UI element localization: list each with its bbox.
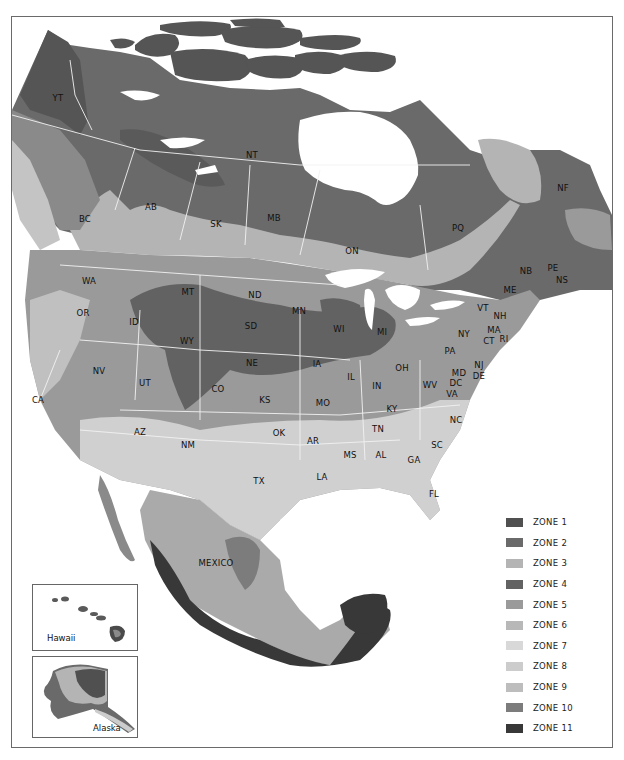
region-label-wv: WV: [423, 380, 438, 390]
region-label-nv: NV: [93, 366, 106, 376]
region-label-ri: RI: [500, 334, 509, 344]
region-label-wa: WA: [82, 276, 96, 286]
zone-9-swatch: [506, 683, 523, 692]
legend-item-zone-5: ZONE 5: [506, 594, 616, 615]
legend-item-zone-2: ZONE 2: [506, 533, 616, 554]
zone-6-swatch: [506, 621, 523, 630]
legend-item-zone-1: ZONE 1: [506, 512, 616, 533]
region-label-ks: KS: [259, 395, 270, 405]
region-label-pe: PE: [548, 263, 559, 273]
legend-item-zone-3: ZONE 3: [506, 553, 616, 574]
region-label-tn: TN: [372, 424, 384, 434]
region-label-tx: TX: [253, 476, 264, 486]
hawaii-label: Hawaii: [47, 633, 75, 643]
legend-item-zone-7: ZONE 7: [506, 636, 616, 657]
region-label-ia: IA: [313, 359, 322, 369]
region-label-ms: MS: [343, 450, 356, 460]
region-label-oh: OH: [395, 363, 408, 373]
region-label-mt: MT: [182, 287, 195, 297]
region-label-bc: BC: [79, 214, 91, 224]
region-label-or: OR: [77, 308, 90, 318]
region-label-fl: FL: [429, 489, 439, 499]
zone-10-swatch: [506, 703, 523, 712]
region-label-on: ON: [345, 246, 358, 256]
zone-1-swatch: [506, 518, 523, 527]
region-label-in: IN: [372, 381, 381, 391]
region-label-ok: OK: [273, 428, 286, 438]
region-label-ns: NS: [556, 275, 568, 285]
zone-8-swatch: [506, 662, 523, 671]
region-label-la: LA: [316, 472, 327, 482]
region-label-az: AZ: [134, 427, 146, 437]
region-label-sc: SC: [431, 440, 443, 450]
zone-7-swatch: [506, 641, 523, 650]
region-label-mb: MB: [267, 213, 281, 223]
region-label-al: AL: [376, 450, 387, 460]
region-label-ky: KY: [387, 404, 398, 414]
legend-item-zone-9: ZONE 9: [506, 677, 616, 698]
alaska-inset: Alaska: [32, 656, 138, 738]
region-label-nc: NC: [450, 415, 463, 425]
region-label-ct: CT: [483, 336, 495, 346]
region-label-mexico: MEXICO: [199, 558, 234, 568]
baja-california: [98, 475, 135, 561]
region-label-ga: GA: [408, 455, 421, 465]
legend-item-zone-8: ZONE 8: [506, 656, 616, 677]
region-label-nj: NJ: [474, 360, 483, 370]
region-label-nt: NT: [246, 150, 258, 160]
legend-item-zone-6: ZONE 6: [506, 615, 616, 636]
region-label-pa: PA: [445, 346, 456, 356]
region-label-ca: CA: [32, 395, 44, 405]
region-label-mo: MO: [316, 398, 330, 408]
legend-item-zone-11: ZONE 11: [506, 718, 616, 739]
region-label-yt: YT: [53, 93, 64, 103]
region-label-ut: UT: [139, 378, 151, 388]
region-label-nf: NF: [557, 183, 569, 193]
zone-4-swatch: [506, 580, 523, 589]
region-label-wy: WY: [180, 336, 194, 346]
region-label-me: ME: [503, 285, 516, 295]
region-label-nb: NB: [520, 266, 533, 276]
zone-2-swatch: [506, 538, 523, 547]
region-label-mi: MI: [377, 327, 387, 337]
region-label-dc: DC: [450, 378, 463, 388]
region-label-md: MD: [452, 368, 466, 378]
region-label-ne: NE: [246, 358, 258, 368]
region-label-sk: SK: [210, 219, 221, 229]
region-label-mn: MN: [292, 306, 306, 316]
region-label-ny: NY: [458, 329, 470, 339]
region-label-pq: PQ: [452, 223, 464, 233]
region-label-co: CO: [211, 384, 224, 394]
region-label-nm: NM: [181, 440, 195, 450]
region-label-nh: NH: [493, 311, 506, 321]
region-label-il: IL: [347, 372, 355, 382]
hawaii-inset: Hawaii: [32, 584, 138, 651]
region-label-ar: AR: [307, 436, 319, 446]
legend-item-zone-10: ZONE 10: [506, 697, 616, 718]
region-label-nd: ND: [248, 290, 261, 300]
region-label-ab: AB: [145, 202, 157, 212]
gulf-of-mexico: [280, 493, 440, 600]
zone-5-swatch: [506, 600, 523, 609]
alaska-label: Alaska: [93, 723, 121, 733]
region-label-va: VA: [446, 389, 458, 399]
region-label-vt: VT: [477, 303, 488, 313]
region-label-id: ID: [129, 317, 138, 327]
alaska-map: [33, 657, 137, 737]
region-label-de: DE: [473, 371, 485, 381]
zone-3-swatch: [506, 559, 523, 568]
region-label-sd: SD: [245, 321, 257, 331]
zone-11-swatch: [506, 724, 523, 733]
zone-legend: ZONE 1 ZONE 2 ZONE 3 ZONE 4 ZONE 5 ZONE …: [506, 512, 616, 739]
region-label-wi: WI: [333, 324, 344, 334]
legend-item-zone-4: ZONE 4: [506, 574, 616, 595]
